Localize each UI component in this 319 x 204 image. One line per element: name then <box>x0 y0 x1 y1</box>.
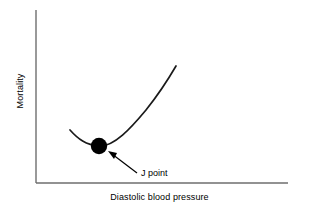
j-point-marker[interactable] <box>91 138 107 154</box>
j-point-annotation-label: J point <box>141 168 168 178</box>
x-axis-label: Diastolic blood pressure <box>0 192 319 202</box>
figure-container: Mortality Diastolic blood pressure J poi… <box>0 0 319 204</box>
mortality-curve <box>70 66 176 146</box>
y-axis-label: Mortality <box>15 55 25 127</box>
annotation-arrow <box>108 151 137 173</box>
